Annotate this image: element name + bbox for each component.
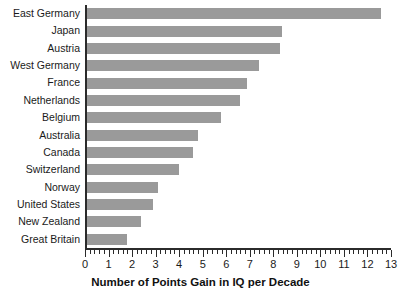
tick-minor — [283, 250, 284, 254]
bar — [87, 8, 381, 19]
tick-minor — [372, 250, 373, 254]
bar-row: Switzerland — [0, 161, 401, 178]
bar — [87, 164, 179, 175]
tick-minor — [207, 250, 208, 254]
tick-minor — [198, 250, 199, 254]
tick-major — [156, 250, 157, 257]
tick-minor — [104, 250, 105, 254]
bar — [87, 95, 240, 106]
tick-minor — [316, 250, 317, 254]
tick-major — [85, 250, 86, 257]
bar — [87, 182, 158, 193]
bar-category-label: France — [0, 74, 80, 91]
tick-minor — [118, 250, 119, 254]
tick-minor — [193, 250, 194, 254]
bar-category-label: Canada — [0, 144, 80, 161]
x-axis-title: Number of Points Gain in IQ per Decade — [0, 276, 401, 288]
tick-major — [320, 250, 321, 257]
bar — [87, 199, 153, 210]
x-axis-tick-labels: 012345678910111213 — [0, 258, 401, 272]
tick-minor — [363, 250, 364, 254]
tick-minor — [302, 250, 303, 254]
tick-minor — [287, 250, 288, 254]
tick-major — [203, 250, 204, 257]
tick-minor — [151, 250, 152, 254]
tick-minor — [90, 250, 91, 254]
bar — [87, 216, 141, 227]
bar — [87, 234, 127, 245]
bar-category-label: Norway — [0, 179, 80, 196]
tick-minor — [264, 250, 265, 254]
tick-major — [344, 250, 345, 257]
bar-row: United States — [0, 196, 401, 213]
tick-minor — [311, 250, 312, 254]
bar-row: Belgium — [0, 109, 401, 126]
tick-minor — [254, 250, 255, 254]
tick-minor — [292, 250, 293, 254]
tick-minor — [184, 250, 185, 254]
bar — [87, 78, 247, 89]
tick-minor — [137, 250, 138, 254]
bar — [87, 147, 193, 158]
bar-row: Netherlands — [0, 92, 401, 109]
bar-category-label: New Zealand — [0, 213, 80, 230]
bar-chart: East GermanyJapanAustriaWest GermanyFran… — [0, 0, 401, 300]
tick-minor — [358, 250, 359, 254]
tick-minor — [212, 250, 213, 254]
tick-minor — [339, 250, 340, 254]
tick-major — [273, 250, 274, 257]
tick-minor — [330, 250, 331, 254]
tick-major — [250, 250, 251, 257]
tick-minor — [141, 250, 142, 254]
bar — [87, 60, 259, 71]
bar-category-label: Australia — [0, 127, 80, 144]
bar-category-label: Belgium — [0, 109, 80, 126]
tick-minor — [236, 250, 237, 254]
tick-major — [132, 250, 133, 257]
tick-minor — [259, 250, 260, 254]
bar-row: Australia — [0, 127, 401, 144]
bar-row: Canada — [0, 144, 401, 161]
tick-minor — [240, 250, 241, 254]
tick-minor — [94, 250, 95, 254]
bar-row: New Zealand — [0, 213, 401, 230]
tick-minor — [113, 250, 114, 254]
tick-minor — [386, 250, 387, 254]
bar-category-label: United States — [0, 196, 80, 213]
tick-minor — [353, 250, 354, 254]
tick-minor — [377, 250, 378, 254]
bar-category-label: Japan — [0, 22, 80, 39]
bar-row: Japan — [0, 22, 401, 39]
bar-row: East Germany — [0, 5, 401, 22]
tick-minor — [174, 250, 175, 254]
tick-minor — [306, 250, 307, 254]
bar-category-label: Great Britain — [0, 231, 80, 248]
tick-major — [179, 250, 180, 257]
tick-minor — [231, 250, 232, 254]
tick-minor — [123, 250, 124, 254]
bar-category-label: Netherlands — [0, 92, 80, 109]
tick-minor — [127, 250, 128, 254]
tick-minor — [269, 250, 270, 254]
bar — [87, 130, 198, 141]
bar-category-label: East Germany — [0, 5, 80, 22]
tick-minor — [99, 250, 100, 254]
bar-row: West Germany — [0, 57, 401, 74]
tick-minor — [165, 250, 166, 254]
tick-major — [109, 250, 110, 257]
tick-minor — [382, 250, 383, 254]
tick-major — [367, 250, 368, 257]
bar — [87, 43, 280, 54]
bar-row: Great Britain — [0, 231, 401, 248]
tick-major — [226, 250, 227, 257]
bar-category-label: Switzerland — [0, 161, 80, 178]
bar-category-label: West Germany — [0, 57, 80, 74]
bar-row: France — [0, 74, 401, 91]
bar-rows: East GermanyJapanAustriaWest GermanyFran… — [0, 5, 401, 248]
tick-minor — [217, 250, 218, 254]
tick-minor — [222, 250, 223, 254]
tick-minor — [245, 250, 246, 254]
x-axis-tick-label: 13 — [376, 258, 401, 270]
bar — [87, 112, 221, 123]
tick-minor — [146, 250, 147, 254]
